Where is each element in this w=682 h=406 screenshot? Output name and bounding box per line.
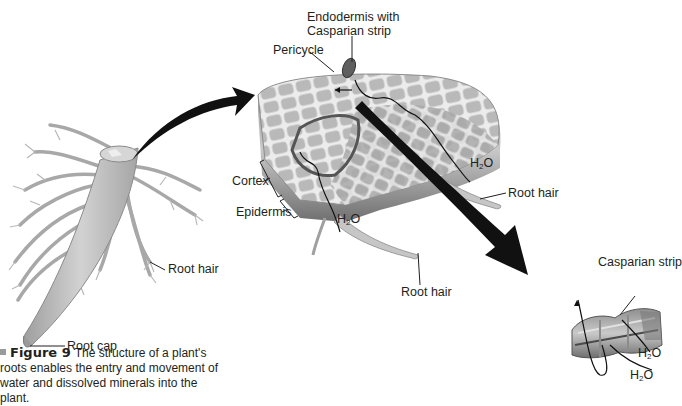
- label-endodermis-line2: Casparian strip: [307, 24, 391, 38]
- root-hair-right-leader-line: [480, 193, 506, 199]
- curved-arrow-icon: [132, 87, 255, 160]
- label-pericycle: Pericycle: [273, 43, 324, 57]
- label-h2o-bottom: H2O: [337, 212, 360, 230]
- caption-bullet-icon: [0, 349, 6, 355]
- figure-number: Figure 9: [10, 345, 71, 360]
- label-epidermis: Epidermis: [236, 205, 292, 219]
- label-endodermis-line1: Endodermis with: [307, 10, 399, 24]
- whole-root-illustration: [9, 125, 203, 347]
- root-cross-section: [258, 57, 501, 259]
- label-root-hair-right: Root hair: [508, 186, 559, 200]
- label-casparian-strip: Casparian strip: [598, 255, 682, 269]
- label-h2o-right: H2O: [470, 156, 493, 174]
- figure-caption: Figure 9The structure of a plant's roots…: [0, 345, 220, 406]
- label-root-hair-bottom: Root hair: [401, 285, 452, 299]
- label-root-hair-left: Root hair: [168, 262, 219, 276]
- label-cortex: Cortex: [232, 174, 269, 188]
- label-h2o-cell-1: H2O: [638, 346, 661, 364]
- root-hair-bottom-leader-line: [418, 253, 420, 285]
- label-h2o-cell-2: H2O: [630, 368, 653, 386]
